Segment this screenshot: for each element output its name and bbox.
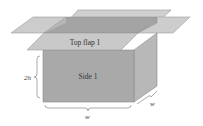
width-brace-front — [45, 105, 131, 111]
top-flap-label: Top flap 1 — [70, 38, 101, 47]
width-depth-label: w — [150, 100, 155, 108]
right-side-face — [134, 33, 157, 102]
open-box-diagram: Top flap 1 Side 1 2h w w — [0, 0, 203, 126]
width-front-label: w — [85, 113, 90, 121]
side-label: Side 1 — [79, 72, 98, 81]
height-brace — [34, 56, 40, 98]
height-label: 2h — [24, 74, 32, 82]
